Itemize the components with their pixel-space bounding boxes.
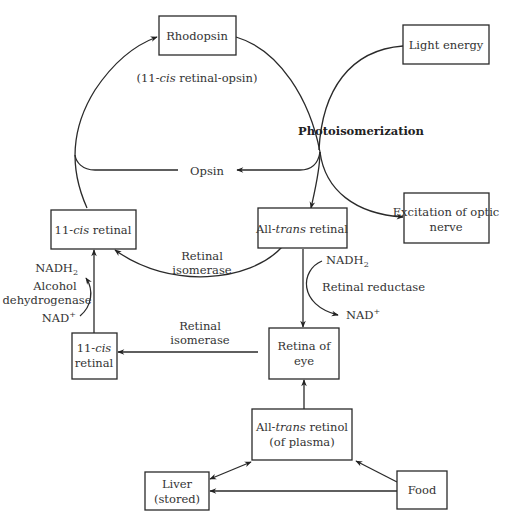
nad-right-label: NAD+ [346, 307, 380, 322]
svg-text:Rhodopsin: Rhodopsin [166, 29, 228, 43]
node-rhodopsin: Rhodopsin [159, 16, 236, 55]
svg-text:Excitation of optic: Excitation of optic [393, 205, 500, 219]
svg-text:All-trans retinol: All-trans retinol [255, 420, 348, 434]
node-retina-of-eye: Retina of eye [269, 328, 339, 379]
dehydrogenase-label: dehydrogenase [3, 293, 92, 307]
retinal-isomerase-label-bottom: Retinal [179, 319, 221, 333]
photoisomerization-label: Photoisomerization [298, 124, 424, 138]
arrow-to-excitation-optic-nerve [320, 152, 403, 217]
node-light-energy: Light energy [403, 25, 489, 64]
arrow-junction-to-opsin [237, 152, 320, 170]
alcohol-label: Alcohol [32, 279, 77, 293]
node-excitation-optic-nerve: Excitation of optic nerve [393, 193, 500, 243]
arrow-liver-retinol-bidirectional [210, 462, 251, 479]
svg-text:eye: eye [294, 354, 314, 368]
node-11-cis-retinal: 11-cis retinal [51, 210, 136, 249]
svg-text:All-trans retinal: All-trans retinal [255, 222, 348, 236]
svg-text:nerve: nerve [429, 220, 462, 234]
node-food: Food [397, 471, 447, 509]
svg-text:(stored): (stored) [154, 492, 200, 506]
retinal-isomerase-label-top-2: isomerase [172, 263, 231, 277]
node-all-trans-retinol: All-trans retinol (of plasma) [252, 409, 352, 460]
node-liver-stored: Liver (stored) [145, 472, 209, 510]
opsin-label: Opsin [190, 164, 224, 178]
arrow-junction-to-all-trans-retinal [311, 152, 320, 208]
svg-text:(of plasma): (of plasma) [269, 435, 334, 449]
rhodopsin-sublabel: (11-cis retinal-opsin) [137, 71, 258, 85]
retinal-isomerase-label-bottom-2: isomerase [170, 333, 229, 347]
svg-text:11-cis: 11-cis [77, 341, 112, 355]
svg-text:11-cis retinal: 11-cis retinal [55, 223, 132, 237]
arrow-food-to-retinol [356, 461, 397, 482]
nad-left-label: NAD+ [42, 310, 76, 325]
svg-text:Liver: Liver [162, 477, 193, 491]
svg-text:Light energy: Light energy [409, 38, 484, 52]
node-11-cis-retinal-small: 11-cis retinal [72, 333, 117, 379]
node-all-trans-retinal: All-trans retinal [255, 208, 348, 248]
svg-text:Food: Food [408, 483, 437, 497]
nadh2-left-label: NADH2 [35, 261, 78, 277]
retinal-isomerase-label-top: Retinal [181, 249, 223, 263]
svg-text:retinal: retinal [75, 356, 114, 370]
retinal-reductase-label: Retinal reductase [322, 280, 425, 294]
line-opsin-to-left-arc [75, 155, 178, 170]
visual-cycle-diagram: Rhodopsin (11-cis retinal-opsin) Light e… [0, 0, 529, 526]
arrow-cis-retinal-to-rhodopsin [75, 37, 157, 208]
svg-text:Retina of: Retina of [278, 339, 332, 353]
nadh2-right-label: NADH2 [326, 253, 369, 269]
